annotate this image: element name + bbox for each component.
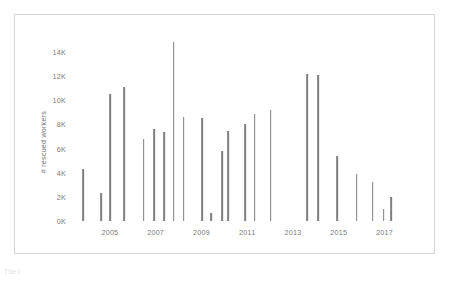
bar	[82, 169, 84, 221]
bar	[254, 114, 256, 221]
plot-area: 0K2K4K6K8K10K12K14K 20052007200920112013…	[71, 40, 428, 221]
y-tick-label: 0K	[57, 217, 66, 226]
y-tick-label: 2K	[57, 192, 66, 201]
x-tick-label: 2007	[147, 228, 164, 237]
bar	[201, 118, 203, 221]
bar	[210, 213, 212, 221]
y-tick-label: 8K	[57, 120, 66, 129]
bar	[221, 151, 223, 221]
x-tick-label: 2015	[330, 228, 347, 237]
y-tick-label: 6K	[57, 144, 66, 153]
bar	[100, 193, 102, 221]
x-tick-label: 2005	[101, 228, 118, 237]
bar	[153, 129, 155, 221]
bar	[391, 197, 393, 221]
bar	[183, 117, 185, 221]
y-tick-label: 4K	[57, 168, 66, 177]
x-tick-label: 2009	[193, 228, 210, 237]
chart-frame: # rescued workers 0K2K4K6K8K10K12K14K 20…	[14, 14, 435, 254]
bar	[163, 132, 165, 221]
bar	[306, 74, 308, 221]
bar	[372, 182, 374, 221]
bar	[143, 139, 145, 221]
y-axis-title: # rescued workers	[39, 111, 48, 173]
bar	[383, 209, 385, 221]
x-tick-label: 2013	[285, 228, 302, 237]
y-tick-label: 10K	[53, 96, 66, 105]
caption-text: The f	[4, 268, 244, 280]
bar	[336, 156, 338, 221]
bar	[317, 75, 319, 221]
bar	[110, 94, 112, 221]
bar	[244, 124, 246, 221]
y-tick-label: 14K	[53, 48, 66, 57]
figure-container: # rescued workers 0K2K4K6K8K10K12K14K 20…	[0, 0, 449, 286]
bar	[123, 87, 125, 221]
x-tick-label: 2011	[239, 228, 255, 237]
bar	[227, 131, 229, 222]
bar	[356, 174, 358, 221]
y-tick-label: 12K	[53, 72, 66, 81]
bar	[173, 42, 175, 221]
x-tick-label: 2017	[376, 228, 393, 237]
bar	[270, 110, 272, 221]
